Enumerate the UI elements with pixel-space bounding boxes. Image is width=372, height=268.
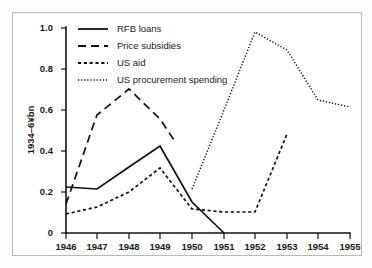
- x-tick-label-1947: 1947: [86, 241, 107, 252]
- y-tick-label-0.4: 0.4: [40, 145, 54, 156]
- figure-container: 1934–6¥bn 1.0 0.8 0.6 0.4 0.2 0: [0, 0, 372, 268]
- x-tick-label-1952: 1952: [244, 241, 265, 252]
- legend-label-us-aid: US aid: [117, 57, 146, 68]
- y-tick-label-0: 0: [48, 227, 53, 238]
- x-tick-label-1954: 1954: [307, 241, 329, 252]
- x-tick-label-1953: 1953: [276, 241, 297, 252]
- series-line-rfb-loans: [66, 146, 224, 233]
- y-tick-label-0.8: 0.8: [40, 63, 53, 74]
- series-line-us-procurement-spending: [192, 32, 350, 189]
- y-axis-label: 1934–6¥bn: [25, 106, 36, 155]
- y-tick-label-0.6: 0.6: [40, 104, 53, 115]
- legend-label-rfb-loans: RFB loans: [117, 23, 162, 34]
- x-tick-label-1946: 1946: [55, 241, 76, 252]
- x-tick-label-1955: 1955: [339, 241, 361, 252]
- y-tick-label-1.0: 1.0: [40, 22, 53, 33]
- y-tick-label-0.2: 0.2: [40, 186, 53, 197]
- legend-label-price-subsidies: Price subsidies: [117, 40, 181, 51]
- legend: RFB loans Price subsidies US aid US proc…: [78, 23, 227, 85]
- legend-label-us-procurement-spending: US procurement spending: [117, 74, 227, 85]
- x-tick-label-1951: 1951: [213, 241, 235, 252]
- x-axis-ticks: [66, 233, 350, 239]
- x-tick-label-1949: 1949: [149, 241, 170, 252]
- line-chart: 1934–6¥bn 1.0 0.8 0.6 0.4 0.2 0: [0, 0, 372, 268]
- x-tick-label-1948: 1948: [118, 241, 139, 252]
- x-tick-label-1950: 1950: [181, 241, 202, 252]
